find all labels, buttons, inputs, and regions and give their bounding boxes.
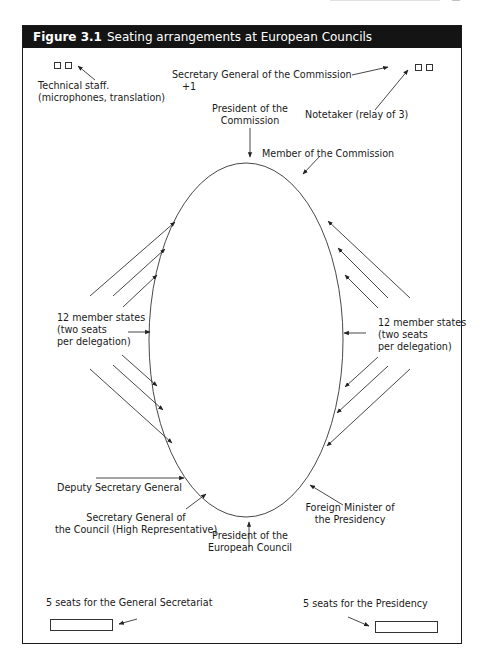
notetaker-seat	[415, 64, 422, 71]
label-president-commission: President of the Commission	[208, 103, 292, 127]
arrow-notetaker	[375, 70, 408, 110]
label-deputy-secretary-general: Deputy Secretary General	[57, 482, 182, 494]
council-table-ellipse	[149, 163, 343, 517]
label-foreign-minister-presidency: Foreign Minister of the Presidency	[305, 502, 395, 526]
arrow-secretary-general-council	[186, 494, 206, 509]
label-seats-general-secretariat: 5 seats for the General Secretariat	[46, 597, 212, 609]
label-secretary-general-council: Secretary General of the Council (High R…	[55, 512, 195, 536]
technical-staff-seat	[65, 62, 72, 69]
label-notetaker: Notetaker (relay of 3)	[305, 109, 408, 121]
label-member-states-right: 12 member states (two seats per delegati…	[378, 317, 466, 353]
label-president-european-council: President of the European Council	[207, 530, 293, 554]
label-seats-presidency: 5 seats for the Presidency	[303, 598, 428, 610]
label-member-states-left: 12 member states (two seats per delegati…	[57, 312, 145, 348]
presidency-seats	[375, 621, 438, 633]
arrow-technical-staff	[78, 66, 95, 80]
technical-staff-seat	[54, 62, 61, 69]
label-member-commission: Member of the Commission	[262, 148, 394, 160]
arrow-seats-presidency	[348, 617, 369, 626]
notetaker-seat	[426, 64, 433, 71]
label-technical-staff: Technical staff. (microphones, translati…	[38, 80, 165, 104]
general-secretariat-seats	[50, 619, 113, 631]
label-secretary-general-commission: Secretary General of the Commission +1	[172, 69, 352, 93]
arrow-secretary-general-commission	[352, 67, 388, 75]
arrow-seats-general-secretariat	[119, 619, 137, 624]
